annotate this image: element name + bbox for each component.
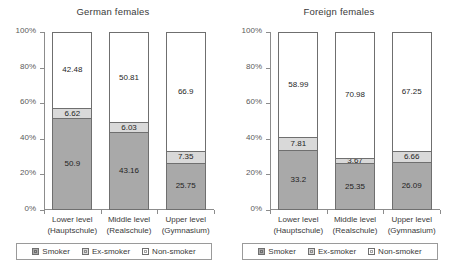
legend-item-non-smoker[interactable]: Non-smoker (368, 247, 422, 256)
bar-segment-value-label: 66.9 (178, 88, 194, 96)
bar-segment-smoker[interactable]: 25.35 (336, 164, 374, 209)
bar-segment-value-label: 58.99 (288, 81, 308, 89)
y-axis-tick-label: 60% (20, 97, 36, 106)
bar-segment-ex-smoker[interactable]: 7.35 (167, 151, 205, 164)
y-axis-tick-label: 60% (246, 97, 262, 106)
legend-swatch-icon (308, 248, 315, 255)
chart-legend: SmokerEx-smokerNon-smoker (16, 243, 212, 260)
legend-item-label: Ex-smoker (92, 247, 130, 256)
plot-area: 0%20%40%60%80%100%58.997.8133.270.983.67… (270, 32, 440, 210)
bar-segment-value-label: 7.81 (291, 140, 307, 148)
category-label-line1: Middle level (334, 215, 376, 224)
category-label-line1: Middle level (108, 215, 150, 224)
bar-segment-smoker[interactable]: 25.75 (167, 164, 205, 209)
category-label-line2: (Gymnasium) (157, 225, 214, 236)
bar-segment-value-label: 67.25 (402, 88, 422, 96)
y-axis-tick-label: 100% (16, 26, 36, 35)
legend-swatch-icon (258, 248, 265, 255)
y-axis-tick-label: 0% (250, 204, 262, 213)
bar-segment-non-smoker[interactable]: 70.98 (336, 33, 374, 158)
y-axis-tick-label: 40% (246, 133, 262, 142)
legend-item-ex-smoker[interactable]: Ex-smoker (308, 247, 356, 256)
bar-segment-ex-smoker[interactable]: 6.03 (110, 122, 148, 133)
stacked-bar[interactable]: 50.816.0343.16 (109, 32, 149, 210)
x-axis-category-labels: Lower level(Hauptschule)Middle level(Rea… (270, 214, 440, 236)
legend-item-smoker[interactable]: Smoker (258, 247, 296, 256)
bar-segment-non-smoker[interactable]: 66.9 (167, 33, 205, 151)
bar-segment-value-label: 43.16 (119, 167, 139, 175)
x-axis-tick-mark (440, 210, 441, 214)
bar-segment-value-label: 50.81 (119, 74, 139, 82)
y-axis-tick-label: 80% (20, 62, 36, 71)
legend-item-smoker[interactable]: Smoker (32, 247, 70, 256)
y-axis-tick-label: 20% (246, 168, 262, 177)
stacked-bar[interactable]: 42.486.6250.9 (52, 32, 92, 210)
category-label-line2: (Realschule) (327, 225, 384, 236)
bar-segment-ex-smoker[interactable]: 6.62 (53, 108, 91, 120)
legend-item-label: Ex-smoker (318, 247, 356, 256)
chart-legend: SmokerEx-smokerNon-smoker (242, 243, 438, 260)
bar-segment-value-label: 6.03 (121, 124, 137, 132)
bar-segment-smoker[interactable]: 43.16 (110, 133, 148, 209)
chart-title: German females (0, 6, 226, 17)
category-label-line1: Upper level (391, 215, 431, 224)
legend-swatch-icon (32, 248, 39, 255)
bar-segment-value-label: 50.9 (65, 160, 81, 168)
bar-group: 58.997.8133.270.983.6725.3567.256.6626.0… (270, 32, 440, 210)
legend-item-label: Smoker (268, 247, 296, 256)
y-axis-tick-label: 20% (20, 168, 36, 177)
figure-root: German females0%20%40%60%80%100%42.486.6… (0, 0, 452, 268)
y-axis-tick-label: 40% (20, 133, 36, 142)
legend-swatch-icon (82, 248, 89, 255)
stacked-bar[interactable]: 67.256.6626.09 (392, 32, 432, 210)
category-label-line1: Lower level (52, 215, 92, 224)
x-axis-category-label: Upper level(Gymnasium) (383, 214, 440, 236)
y-axis-tick-label: 0% (24, 204, 36, 213)
bar-segment-non-smoker[interactable]: 67.25 (393, 33, 431, 151)
bar-slot: 58.997.8133.2 (270, 32, 327, 210)
stacked-bar[interactable]: 70.983.6725.35 (335, 32, 375, 210)
legend-item-label: Smoker (42, 247, 70, 256)
chart-panel-german-females: German females0%20%40%60%80%100%42.486.6… (0, 0, 226, 268)
bar-group: 42.486.6250.950.816.0343.1666.97.3525.75 (44, 32, 214, 210)
y-axis-tick-label: 100% (242, 26, 262, 35)
bar-segment-non-smoker[interactable]: 42.48 (53, 33, 91, 108)
bar-segment-value-label: 6.62 (65, 110, 81, 118)
bar-segment-ex-smoker[interactable]: 6.66 (393, 151, 431, 163)
bar-segment-non-smoker[interactable]: 50.81 (110, 33, 148, 122)
stacked-bar[interactable]: 66.97.3525.75 (166, 32, 206, 210)
x-axis-category-label: Lower level(Hauptschule) (270, 214, 327, 236)
category-label-line1: Lower level (278, 215, 318, 224)
bar-segment-value-label: 6.66 (404, 153, 420, 161)
bar-segment-value-label: 26.09 (402, 182, 422, 190)
bar-slot: 66.97.3525.75 (157, 32, 214, 210)
bar-slot: 50.816.0343.16 (101, 32, 158, 210)
bar-segment-value-label: 25.75 (176, 182, 196, 190)
bar-segment-value-label: 33.2 (291, 176, 307, 184)
legend-item-label: Non-smoker (152, 247, 196, 256)
legend-swatch-icon (368, 248, 375, 255)
chart-title: Foreign females (226, 6, 452, 17)
bar-segment-smoker[interactable]: 50.9 (53, 119, 91, 209)
stacked-bar[interactable]: 58.997.8133.2 (278, 32, 318, 210)
bar-segment-value-label: 7.35 (178, 153, 194, 161)
bar-segment-value-label: 42.48 (62, 66, 82, 74)
bar-segment-ex-smoker[interactable]: 7.81 (279, 137, 317, 151)
bar-slot: 70.983.6725.35 (327, 32, 384, 210)
chart-panel-foreign-females: Foreign females0%20%40%60%80%100%58.997.… (226, 0, 452, 268)
bar-segment-value-label: 25.35 (345, 183, 365, 191)
bar-segment-smoker[interactable]: 33.2 (279, 151, 317, 209)
x-axis-category-label: Upper level(Gymnasium) (157, 214, 214, 236)
legend-item-non-smoker[interactable]: Non-smoker (142, 247, 196, 256)
x-axis-category-label: Middle level(Realschule) (101, 214, 158, 236)
y-axis-tick-label: 80% (246, 62, 262, 71)
bar-segment-non-smoker[interactable]: 58.99 (279, 33, 317, 137)
bar-slot: 67.256.6626.09 (383, 32, 440, 210)
legend-item-ex-smoker[interactable]: Ex-smoker (82, 247, 130, 256)
legend-item-label: Non-smoker (378, 247, 422, 256)
bar-segment-smoker[interactable]: 26.09 (393, 163, 431, 209)
bar-segment-value-label: 70.98 (345, 91, 365, 99)
category-label-line2: (Hauptschule) (270, 225, 327, 236)
x-axis-tick-mark (214, 210, 215, 214)
category-label-line1: Upper level (165, 215, 205, 224)
